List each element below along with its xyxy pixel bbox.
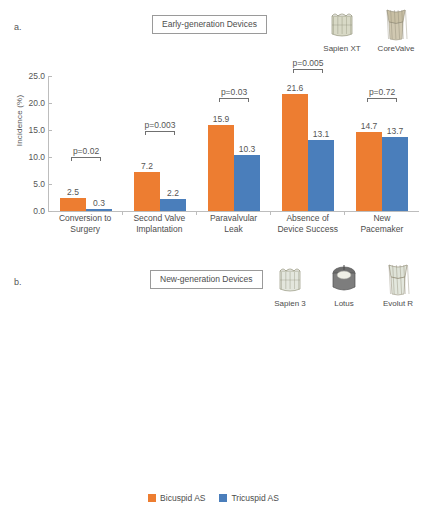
p-value-bracket — [71, 157, 101, 161]
y-axis-tick: 20.0 — [28, 98, 49, 108]
chart-early-generation: Incidence (%)0.05.010.015.020.025.02.50.… — [0, 76, 427, 211]
legend-item[interactable]: Bicuspid AS — [148, 493, 205, 503]
bar-group: 7.22.2p=0.003 — [123, 76, 197, 211]
legend-label: Bicuspid AS — [160, 493, 205, 503]
bar-value-label: 21.6 — [287, 83, 304, 93]
evolut-r-valve-icon — [383, 263, 413, 297]
x-axis-tick-label: NewPacemaker — [345, 213, 419, 235]
p-value-label: p=0.02 — [69, 146, 103, 156]
x-axis-tick-label: Conversion toSurgery — [48, 213, 122, 235]
panel-a-letter: a. — [14, 22, 22, 32]
bar-value-label: 13.7 — [387, 126, 404, 136]
bar-bicuspid-as[interactable]: 14.7 — [356, 132, 382, 211]
legend-swatch — [219, 494, 227, 502]
x-axis-tick-label: Absence ofDevice Success — [271, 213, 345, 235]
device-icons-early-generation: Sapien XTCoreValve — [319, 8, 419, 53]
bar-tricuspid-as[interactable]: 2.2 — [160, 199, 186, 211]
bar-value-label: 15.9 — [213, 114, 230, 124]
p-value-label: p=0.03 — [217, 87, 251, 97]
legend-swatch — [148, 494, 156, 502]
y-axis-tick: 10.0 — [28, 152, 49, 162]
device-icons-new-generation: Sapien 3LotusEvolut R — [267, 263, 421, 308]
lotus-valve-icon — [329, 263, 359, 297]
p-value-label: p=0.003 — [143, 120, 177, 130]
device-corevalve-valve-icon: CoreValve — [373, 8, 419, 53]
p-value-label: p=0.005 — [291, 58, 325, 68]
x-axis-labels: Conversion toSurgerySecond ValveImplanta… — [48, 213, 419, 235]
device-label: Evolut R — [383, 299, 413, 308]
sapien-xt-valve-icon — [327, 8, 357, 42]
device-lotus-valve-icon: Lotus — [321, 263, 367, 308]
bar-group: 14.713.7p=0.72 — [345, 76, 419, 211]
p-value-annotation: p=0.03 — [217, 87, 251, 102]
bar-tricuspid-as[interactable]: 10.3 — [234, 155, 260, 211]
panel-b-letter: b. — [14, 277, 22, 287]
plot-area: 0.05.010.015.020.025.02.50.3p=0.027.22.2… — [48, 76, 419, 212]
p-value-bracket — [367, 98, 397, 102]
sapien-3-valve-icon — [275, 263, 305, 297]
p-value-label: p=0.72 — [365, 87, 399, 97]
y-axis-tick: 5.0 — [33, 179, 49, 189]
y-axis-title: Incidence (%) — [15, 61, 24, 181]
device-sapien-xt-valve-icon: Sapien XT — [319, 8, 365, 53]
bar-value-label: 0.3 — [93, 198, 105, 208]
p-value-annotation: p=0.72 — [365, 87, 399, 102]
p-value-bracket — [293, 69, 323, 73]
panel-new-generation: b. New-generation Devices Sapien 3LotusE… — [0, 255, 427, 509]
panel-b-title: New-generation Devices — [150, 270, 263, 289]
device-label: Lotus — [334, 299, 354, 308]
panel-a-title: Early-generation Devices — [152, 15, 267, 34]
bar-value-label: 2.5 — [67, 187, 79, 197]
bar-group: 15.910.3p=0.03 — [197, 76, 271, 211]
bar-group: 21.613.1p=0.005 — [271, 76, 345, 211]
device-label: Sapien 3 — [274, 299, 306, 308]
y-axis-tick: 15.0 — [28, 125, 49, 135]
chart-legend: Bicuspid ASTricuspid AS — [0, 493, 427, 503]
bar-value-label: 7.2 — [141, 161, 153, 171]
bar-bicuspid-as[interactable]: 2.5 — [60, 198, 86, 212]
p-value-bracket — [219, 98, 249, 102]
y-axis-tick: 0.0 — [33, 206, 49, 216]
device-evolut-r-valve-icon: Evolut R — [375, 263, 421, 308]
bar-value-label: 2.2 — [167, 188, 179, 198]
bar-bicuspid-as[interactable]: 15.9 — [208, 125, 234, 211]
panel-early-generation: a. Early-generation Devices Sapien XTCor… — [0, 0, 427, 255]
bar-value-label: 13.1 — [313, 129, 330, 139]
device-sapien-3-valve-icon: Sapien 3 — [267, 263, 313, 308]
bar-tricuspid-as[interactable]: 0.3 — [86, 209, 112, 211]
bar-bicuspid-as[interactable]: 7.2 — [134, 172, 160, 211]
corevalve-valve-icon — [381, 8, 411, 42]
device-label: Sapien XT — [323, 44, 360, 53]
legend-label: Tricuspid AS — [231, 493, 278, 503]
bar-value-label: 14.7 — [361, 121, 378, 131]
p-value-annotation: p=0.003 — [143, 120, 177, 135]
x-axis-tick-label: Second ValveImplantation — [122, 213, 196, 235]
p-value-annotation: p=0.02 — [69, 146, 103, 161]
bar-group: 2.50.3p=0.02 — [49, 76, 123, 211]
legend-item[interactable]: Tricuspid AS — [219, 493, 278, 503]
bar-tricuspid-as[interactable]: 13.1 — [308, 140, 334, 211]
device-label: CoreValve — [378, 44, 415, 53]
y-axis-tick: 25.0 — [28, 71, 49, 81]
p-value-annotation: p=0.005 — [291, 58, 325, 73]
bar-value-label: 10.3 — [239, 144, 256, 154]
bar-bicuspid-as[interactable]: 21.6 — [282, 94, 308, 211]
p-value-bracket — [145, 131, 175, 135]
bar-tricuspid-as[interactable]: 13.7 — [382, 137, 408, 211]
x-axis-tick-label: ParavalvularLeak — [196, 213, 270, 235]
